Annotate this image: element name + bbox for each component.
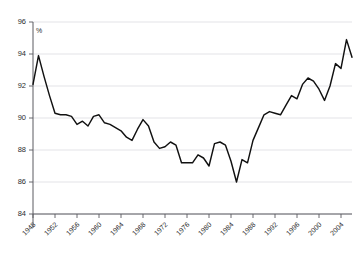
chart-container: 84868890929496 1948195219561960196419681… xyxy=(0,0,356,264)
y-tick-label: 90 xyxy=(18,113,26,122)
y-tick-label: 96 xyxy=(18,17,26,26)
x-tick-label: 1988 xyxy=(241,221,257,237)
x-tick-label: 2000 xyxy=(307,221,323,237)
x-tick-label: 1948 xyxy=(21,221,37,237)
x-tick-label: 2004 xyxy=(329,221,345,237)
x-tick-label: 1992 xyxy=(263,221,279,237)
x-tick-label: 1972 xyxy=(153,221,169,237)
x-tick-label: 1960 xyxy=(87,221,103,237)
x-tick-label: 1976 xyxy=(175,221,191,237)
x-tick-label: 1964 xyxy=(109,221,125,237)
x-tick-label: 1956 xyxy=(65,221,81,237)
y-axis-unit-label: % xyxy=(36,27,42,34)
y-tick-label: 92 xyxy=(18,81,26,90)
y-tick-label: 88 xyxy=(18,145,26,154)
y-axis-ticks: 84868890929496 xyxy=(18,17,33,218)
x-tick-label: 1984 xyxy=(219,221,235,237)
data-series-line xyxy=(33,40,352,182)
x-tick-label: 1980 xyxy=(197,221,213,237)
x-tick-label: 1968 xyxy=(131,221,147,237)
y-tick-label: 84 xyxy=(18,209,26,218)
gridlines xyxy=(33,22,352,214)
x-tick-label: 1996 xyxy=(285,221,301,237)
y-tick-label: 94 xyxy=(18,49,26,58)
line-chart-plot: 84868890929496 1948195219561960196419681… xyxy=(0,0,356,264)
x-axis-ticks: 1948195219561960196419681972197619801984… xyxy=(21,214,345,237)
y-tick-label: 86 xyxy=(18,177,26,186)
x-tick-label: 1952 xyxy=(43,221,59,237)
